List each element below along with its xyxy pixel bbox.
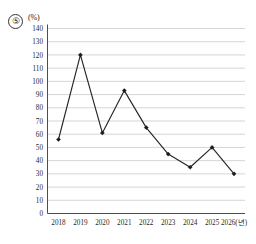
data-point-marker (56, 137, 60, 141)
y-axis-tick-label: 140 (32, 25, 43, 33)
y-axis-tick-label: 90 (36, 91, 44, 99)
y-axis-tick-label: 40 (36, 157, 44, 165)
x-axis-tick-label: 2020 (95, 219, 110, 227)
line-chart: 0102030405060708090100110120130140 20182… (0, 0, 256, 244)
y-axis-tick-label: 80 (36, 104, 44, 112)
y-axis-tick-label: 10 (36, 197, 44, 205)
gridlines (48, 29, 246, 201)
data-point-marker (78, 53, 82, 57)
chart-page: ⑤ (%) 0102030405060708090100110120130140… (0, 0, 256, 244)
x-axis-tick-label: 2023 (161, 219, 176, 227)
y-axis-tick-label: 0 (39, 210, 43, 218)
x-axis-tick-label: 2024 (183, 219, 198, 227)
x-axis-tick-label: 2021 (117, 219, 132, 227)
x-axis-tick-label: 2022 (139, 219, 154, 227)
y-axis-tick-label: 50 (36, 144, 44, 152)
x-axis-tick-labels: 201820192020202120222023202420252026(년) (51, 218, 247, 227)
series-line (58, 55, 234, 174)
series-markers (56, 53, 236, 176)
y-axis-tick-label: 110 (32, 65, 43, 73)
y-axis-tick-label: 30 (36, 170, 44, 178)
y-axis-tick-label: 100 (32, 78, 43, 86)
y-axis-tick-label: 130 (32, 38, 43, 46)
y-axis-tick-label: 70 (36, 118, 44, 126)
x-axis-tick-label: 2025 (205, 219, 220, 227)
x-axis-tick-label: 2026(년) (221, 218, 248, 227)
x-axis-tick-label: 2018 (51, 219, 66, 227)
y-axis-tick-label: 120 (32, 52, 43, 60)
chart-canvas: 0102030405060708090100110120130140 20182… (0, 0, 256, 244)
y-axis-tick-label: 60 (36, 131, 44, 139)
y-axis-tick-labels: 0102030405060708090100110120130140 (32, 25, 43, 218)
x-axis-tick-label: 2019 (73, 219, 88, 227)
y-axis-tick-label: 20 (36, 184, 44, 192)
data-series (56, 53, 236, 176)
axis-lines (48, 25, 246, 214)
